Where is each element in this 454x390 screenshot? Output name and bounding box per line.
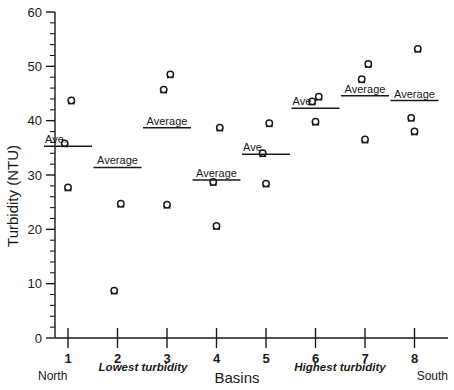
data-point-marker — [362, 136, 368, 143]
average-line-group: Ave.AverageAverageAverageAve.Ave.Average… — [44, 83, 439, 180]
data-point-marker — [316, 93, 322, 100]
data-point-marker — [213, 223, 219, 230]
x-axis-title: Basins — [214, 369, 259, 386]
y-tick-label: 20 — [28, 222, 42, 237]
data-point-marker — [68, 97, 74, 104]
average-label: Average — [97, 154, 138, 166]
y-tick-label: 30 — [28, 168, 42, 183]
data-point-marker — [118, 200, 124, 207]
lowest-turbidity-label: Lowest turbidity — [99, 361, 188, 373]
north-label: North — [38, 369, 67, 383]
y-axis-title: Turbidity (NTU) — [4, 145, 21, 247]
data-point-marker — [365, 61, 371, 68]
data-point-marker — [161, 86, 167, 93]
x-tick-label: 5 — [262, 351, 269, 366]
average-label: Average — [196, 167, 237, 179]
data-point-marker — [266, 120, 272, 127]
y-tick-label: 50 — [28, 59, 42, 74]
data-point-marker — [263, 180, 269, 187]
x-tick-label: 1 — [64, 351, 71, 366]
south-label: South — [417, 369, 448, 383]
y-tick-label: 10 — [28, 276, 42, 291]
data-point-marker — [415, 46, 421, 53]
y-tick-group: 0102030405060 — [28, 5, 55, 346]
x-tick-label: 4 — [213, 351, 221, 366]
data-point-marker — [164, 202, 170, 209]
data-point-marker — [217, 124, 223, 131]
average-label: Average — [345, 83, 386, 95]
y-tick-label: 0 — [35, 331, 42, 346]
highest-turbidity-label: Highest turbidity — [294, 361, 386, 373]
average-label: Average — [147, 115, 188, 127]
data-point-marker — [312, 118, 318, 125]
data-point-marker — [65, 184, 71, 191]
data-point-marker — [408, 115, 414, 122]
data-point-marker — [411, 128, 417, 135]
average-label: Ave. — [45, 133, 67, 145]
average-label: Ave. — [293, 95, 315, 107]
turbidity-scatter-chart: 0102030405060 12345678 Ave.AverageAverag… — [0, 0, 454, 390]
data-point-marker — [111, 287, 117, 294]
average-label: Average — [394, 88, 435, 100]
x-tick-label: 8 — [411, 351, 418, 366]
chart-canvas: 0102030405060 12345678 Ave.AverageAverag… — [0, 0, 454, 390]
y-tick-label: 60 — [28, 5, 42, 20]
average-label: Ave. — [243, 141, 265, 153]
y-tick-label: 40 — [28, 113, 42, 128]
data-point-marker — [167, 71, 173, 78]
data-point-marker — [359, 76, 365, 83]
axis-group — [55, 12, 448, 338]
